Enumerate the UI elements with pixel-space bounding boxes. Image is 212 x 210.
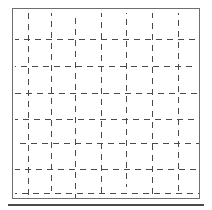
- grid-line-horizontal-h4: [67, 119, 73, 120]
- grid-line-vertical-v2: [51, 153, 52, 159]
- grid-line-horizontal-h3: [103, 93, 109, 94]
- grid-line-horizontal-h5: [174, 143, 180, 144]
- grid-line-horizontal-h5: [141, 143, 147, 144]
- grid-line-horizontal-h1: [189, 39, 195, 40]
- grid-line-vertical-v3: [75, 106, 76, 112]
- grid-line-horizontal-h3: [26, 93, 32, 94]
- grid-line-vertical-v7: [178, 130, 179, 136]
- grid-line-horizontal-h1: [68, 39, 74, 40]
- grid-line-horizontal-h1: [24, 39, 30, 40]
- grid-line-vertical-v5: [126, 30, 127, 36]
- grid-line-horizontal-h3: [158, 93, 164, 94]
- grid-line-vertical-v1: [28, 24, 29, 30]
- grid-line-vertical-v7: [178, 20, 179, 26]
- grid-line-horizontal-h6: [80, 169, 86, 170]
- grid-line-vertical-v6: [152, 177, 153, 183]
- grid-line-horizontal-h7: [99, 193, 105, 194]
- grid-line-horizontal-h4: [144, 119, 150, 120]
- grid-line-vertical-v6: [152, 13, 153, 18]
- grid-line-horizontal-h6: [179, 169, 185, 170]
- grid-line-horizontal-h5: [42, 143, 48, 144]
- grid-line-horizontal-h2: [142, 66, 148, 67]
- grid-line-horizontal-h6: [91, 169, 97, 170]
- grid-line-vertical-v3: [75, 128, 76, 134]
- grid-line-vertical-v1: [28, 123, 29, 129]
- grid-line-horizontal-h1: [178, 39, 184, 40]
- frame-edge-right: [199, 8, 200, 199]
- grid-line-vertical-v2: [51, 109, 52, 115]
- grid-line-horizontal-h3: [136, 93, 142, 94]
- grid-line-vertical-v3: [75, 183, 76, 189]
- grid-line-horizontal-h1: [57, 39, 63, 40]
- grid-line-horizontal-h7: [77, 193, 83, 194]
- grid-line-horizontal-h1: [35, 39, 41, 40]
- grid-line-vertical-v1: [28, 46, 29, 52]
- frame-edge-bottom: [12, 198, 200, 199]
- grid-line-vertical-v3: [75, 172, 76, 178]
- grid-line-vertical-v3: [75, 18, 76, 24]
- grid-line-vertical-v1: [28, 167, 29, 173]
- grid-line-horizontal-h3: [180, 93, 186, 94]
- grid-line-horizontal-h6: [135, 169, 141, 170]
- grid-line-vertical-v5: [126, 74, 127, 80]
- grid-line-vertical-v6: [152, 133, 153, 139]
- grid-line-horizontal-h5: [108, 143, 114, 144]
- grid-line-vertical-v1: [28, 101, 29, 107]
- grid-line-vertical-v6: [152, 89, 153, 95]
- grid-line-vertical-v5: [126, 162, 127, 168]
- grid-line-vertical-v3: [75, 95, 76, 101]
- grid-line-horizontal-h7: [88, 193, 94, 194]
- grid-line-vertical-v3: [75, 40, 76, 46]
- grid-line-horizontal-h3: [48, 93, 54, 94]
- grid-line-vertical-v5: [126, 107, 127, 113]
- grid-line-horizontal-h6: [168, 169, 174, 170]
- grid-line-horizontal-h7: [198, 193, 199, 194]
- grid-line-vertical-v4: [101, 132, 102, 138]
- grid-line-vertical-v2: [51, 131, 52, 137]
- grid-line-vertical-v6: [152, 144, 153, 150]
- grid-line-horizontal-h1: [167, 39, 173, 40]
- grid-line-vertical-v7: [178, 64, 179, 70]
- grid-line-horizontal-h6: [190, 169, 196, 170]
- grid-line-vertical-v3: [75, 62, 76, 68]
- grid-line-horizontal-h7: [55, 193, 61, 194]
- grid-line-horizontal-h4: [45, 119, 51, 120]
- grid-line-vertical-v6: [152, 78, 153, 84]
- grid-line-vertical-v6: [152, 23, 153, 29]
- grid-line-vertical-v5: [126, 184, 127, 187]
- grid-line-horizontal-h2: [15, 66, 16, 67]
- grid-line-vertical-v3: [75, 139, 76, 145]
- grid-line-vertical-v2: [51, 186, 52, 191]
- grid-line-horizontal-h5: [31, 143, 37, 144]
- grid-line-horizontal-h7: [165, 193, 171, 194]
- grid-line-vertical-v1: [28, 68, 29, 74]
- grid-line-horizontal-h5: [152, 143, 158, 144]
- grid-line-vertical-v2: [51, 65, 52, 71]
- grid-line-vertical-v4: [101, 44, 102, 50]
- grid-line-vertical-v4: [101, 165, 102, 171]
- grid-line-vertical-v5: [126, 140, 127, 146]
- grid-line-vertical-v1: [28, 13, 29, 19]
- grid-line-horizontal-h2: [109, 66, 115, 67]
- grid-line-vertical-v7: [178, 108, 179, 114]
- grid-line-horizontal-h2: [65, 66, 71, 67]
- grid-line-vertical-v4: [101, 88, 102, 94]
- grid-line-vertical-v6: [152, 166, 153, 172]
- grid-line-horizontal-h2: [87, 66, 93, 67]
- grid-line-vertical-v1: [28, 35, 29, 41]
- grid-line-vertical-v7: [178, 75, 179, 81]
- grid-line-horizontal-h7: [44, 193, 50, 194]
- grid-line-vertical-v3: [75, 161, 76, 167]
- grid-line-vertical-v3: [75, 29, 76, 35]
- grid-line-horizontal-h6: [124, 169, 130, 170]
- figure-frame: [12, 8, 200, 199]
- grid-line-horizontal-h7: [66, 193, 72, 194]
- grid-line-horizontal-h7: [121, 193, 127, 194]
- dashed-grid-area: [13, 9, 199, 198]
- grid-line-horizontal-h1: [46, 39, 52, 40]
- grid-line-vertical-v4: [101, 99, 102, 105]
- grid-line-vertical-v6: [152, 45, 153, 51]
- grid-line-horizontal-h4: [56, 119, 62, 120]
- grid-line-horizontal-h4: [23, 119, 29, 120]
- grid-line-vertical-v2: [51, 120, 52, 126]
